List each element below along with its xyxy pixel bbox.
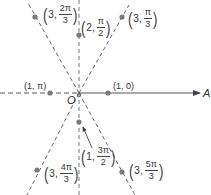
label-3-5pi-over-3: ( 3, 5π3 ) [128,160,164,181]
point-3-2pi-over-3 [32,14,37,19]
point-3-4pi-over-3 [34,167,39,172]
label-1-pi: (1, π) [24,82,46,91]
label-r: 3, [48,10,56,20]
label-1-0: (1, 0) [113,82,134,91]
label-1-3pi-over-2: ( 1, 3π2 ) [80,146,116,167]
label-2-pi-over-2: ( 2, π2 ) [80,17,111,38]
label-r: 3, [133,14,141,24]
label-3-pi-over-3: ( 3, π3 ) [127,8,158,29]
label-3-2pi-over-3: ( 3, 2π3 ) [42,4,78,25]
leader-arrow [83,127,92,148]
label-r: 3, [49,169,57,179]
label-r: 3, [134,166,142,176]
ray-5pi-over-3 [79,93,135,195]
point-3-pi-over-3 [119,14,124,19]
axis-label: A [203,87,210,99]
point-1-3pi-over-2 [76,119,81,124]
label-3-4pi-over-3: ( 3, 4π3 ) [43,163,79,184]
point-1-0 [105,90,110,95]
label-r: 2, [86,23,94,33]
label-r: 1, [86,152,94,162]
origin-label: O [67,94,76,106]
point-1-pi [47,90,52,95]
point-3-5pi-over-3 [119,169,124,174]
